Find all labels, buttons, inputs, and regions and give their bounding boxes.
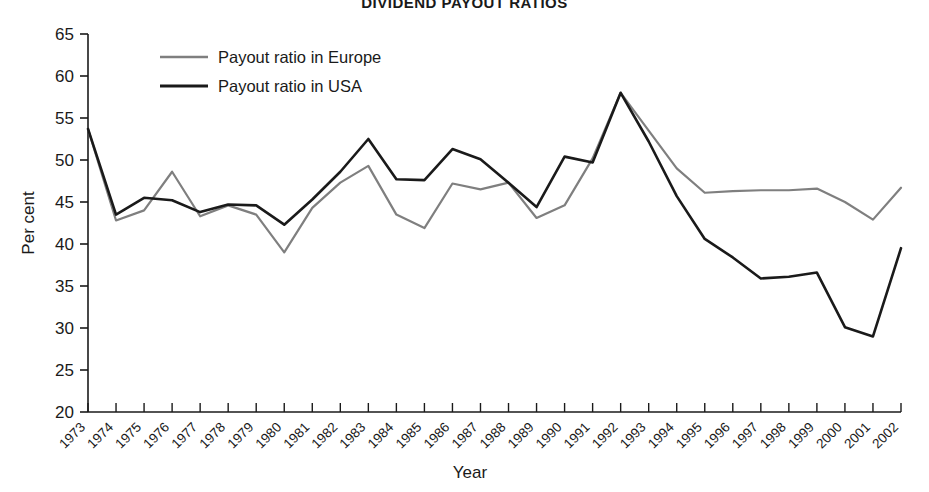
y-tick-label: 40 [55, 235, 74, 254]
chart-canvas: 20253035404550556065 1973197419751976197… [0, 0, 929, 492]
y-tick-label: 20 [55, 403, 74, 422]
x-tick-label: 1984 [365, 419, 397, 451]
legend-label-europe: Payout ratio in Europe [218, 48, 381, 66]
x-tick-label: 1981 [281, 420, 313, 452]
x-tick-label: 1974 [84, 419, 116, 451]
x-tick-label: 1992 [589, 420, 621, 452]
x-tick-label: 1976 [140, 420, 172, 452]
y-tick-label: 50 [55, 151, 74, 170]
x-tick-label: 1998 [757, 420, 789, 452]
y-axis-title: Per cent [19, 191, 38, 255]
x-tick-label: 1979 [224, 420, 256, 452]
y-tick-label: 45 [55, 193, 74, 212]
series-line-usa [88, 93, 901, 337]
x-tick-label: 1987 [449, 420, 481, 452]
x-tick-label: 1977 [168, 420, 200, 452]
x-tick-label: 1978 [196, 420, 228, 452]
y-tick-label: 60 [55, 67, 74, 86]
y-tick-label: 30 [55, 319, 74, 338]
x-tick-label: 1999 [785, 420, 817, 452]
legend-label-usa: Payout ratio in USA [218, 77, 362, 95]
x-tick-label: 2001 [841, 420, 873, 452]
x-tick-label: 1996 [701, 420, 733, 452]
x-tick-label: 1983 [337, 420, 369, 452]
y-tick-label: 25 [55, 361, 74, 380]
x-axis-ticks: 1973197419751976197719781979198019811982… [56, 403, 901, 451]
x-tick-label: 1973 [56, 420, 88, 452]
x-tick-label: 2002 [869, 420, 901, 452]
x-tick-label: 1994 [645, 419, 677, 451]
x-axis-title: Year [453, 463, 488, 482]
x-tick-label: 1975 [112, 420, 144, 452]
x-tick-label: 1988 [477, 420, 509, 452]
x-tick-label: 1989 [505, 420, 537, 452]
y-tick-label: 35 [55, 277, 74, 296]
x-tick-label: 1986 [421, 420, 453, 452]
x-tick-label: 1991 [561, 420, 593, 452]
y-tick-label: 55 [55, 109, 74, 128]
x-tick-label: 1980 [253, 420, 285, 452]
x-tick-label: 1982 [309, 420, 341, 452]
x-tick-label: 1997 [729, 420, 761, 452]
x-tick-label: 1993 [617, 420, 649, 452]
chart-legend: Payout ratio in EuropePayout ratio in US… [160, 48, 381, 95]
x-tick-label: 1985 [393, 420, 425, 452]
y-tick-label: 65 [55, 25, 74, 44]
x-tick-label: 1995 [673, 420, 705, 452]
y-axis-ticks: 20253035404550556065 [55, 25, 88, 422]
x-tick-label: 2000 [813, 420, 845, 452]
dividend-payout-chart: DIVIDEND PAYOUT RATIOS 20253035404550556… [0, 0, 929, 492]
x-tick-label: 1990 [533, 420, 565, 452]
data-series-group [88, 93, 901, 337]
